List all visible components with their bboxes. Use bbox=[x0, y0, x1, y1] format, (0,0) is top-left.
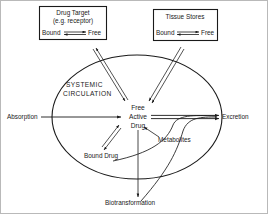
metabolites-label: Metabolites bbox=[158, 137, 191, 144]
free-active-drug-line1: Free bbox=[123, 105, 153, 112]
drug-target-free-label: Free bbox=[88, 30, 101, 37]
systemic-circulation-label-line1: SYSTEMIC bbox=[66, 82, 103, 89]
bound-drug-connector bbox=[102, 125, 121, 150]
free-active-drug-line3: Drug bbox=[123, 123, 153, 130]
drug-target-title: Drug Target bbox=[41, 10, 105, 17]
tissue-stores-free-label: Free bbox=[201, 30, 214, 37]
drug-target-bound-label: Bound bbox=[42, 30, 60, 37]
absorption-label: Absorption bbox=[7, 114, 38, 121]
excretion-label: Excretion bbox=[222, 114, 249, 121]
free-active-drug-line2: Active bbox=[123, 114, 153, 121]
drug-target-subtitle: (e.g. receptor) bbox=[41, 18, 105, 25]
tissue-stores-bound-label: Bound bbox=[156, 30, 174, 37]
tissue-stores-connector bbox=[149, 47, 184, 103]
biotransformation-label: Biotransformation bbox=[105, 200, 155, 207]
tissue-stores-title: Tissue Stores bbox=[153, 14, 217, 21]
bound-drug-label: Bound Drug bbox=[84, 153, 118, 160]
diagram-page: Drug Target (e.g. receptor) Bound Free T… bbox=[0, 0, 268, 214]
systemic-circulation-label-line2: CIRCULATION bbox=[63, 91, 112, 98]
